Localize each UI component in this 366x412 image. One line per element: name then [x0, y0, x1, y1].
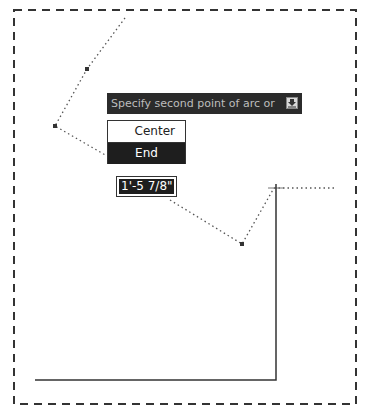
- drawing-canvas[interactable]: [0, 0, 366, 412]
- dimension-value[interactable]: 1'-5 7/8": [119, 179, 174, 194]
- down-arrow-icon[interactable]: [286, 97, 298, 109]
- menu-item-center[interactable]: Center: [108, 121, 185, 142]
- menu-item-end[interactable]: End: [108, 142, 185, 164]
- arc-options-menu: Center End: [107, 120, 186, 164]
- viewport-border: [14, 10, 356, 404]
- existing-polyline: [35, 184, 276, 380]
- vertex-marker: [85, 67, 89, 71]
- vertex-marker: [53, 124, 57, 128]
- vertex-marker: [240, 242, 244, 246]
- dynamic-input-prompt: Specify second point of arc or: [107, 93, 302, 114]
- arc-preview-path-2: [170, 188, 274, 244]
- prompt-text: Specify second point of arc or: [111, 97, 275, 110]
- dimension-input[interactable]: 1'-5 7/8": [116, 176, 177, 197]
